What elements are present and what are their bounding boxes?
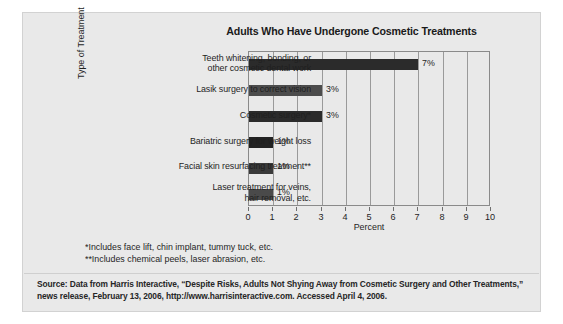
footnote: **Includes chemical peels, laser abrasio… — [85, 253, 273, 265]
footnote: *Includes face lift, chin implant, tummy… — [85, 241, 273, 253]
category-label: Cosmetic surgery* — [140, 110, 311, 121]
source-divider — [24, 273, 539, 274]
source-line-1: Source: Data from Harris Interactive, “D… — [37, 279, 533, 291]
y-axis-title: Type of Treatment — [75, 7, 86, 79]
bar-value-label: 1% — [277, 161, 290, 171]
bar-value-label: 7% — [422, 58, 435, 68]
source-note: Source: Data from Harris Interactive, “D… — [37, 279, 533, 302]
category-label: Lasik surgery to correct vision — [140, 84, 311, 95]
bar-value-label: 1% — [277, 187, 290, 197]
bar-value-label: 3% — [326, 84, 339, 94]
bar-value-label: 1% — [277, 136, 290, 146]
x-axis-ticks: 012345678910 — [248, 207, 490, 221]
chart-title: Adults Who Have Undergone Cosmetic Treat… — [189, 25, 513, 37]
category-label: Teeth whitening, bonding, or other cosme… — [140, 53, 311, 74]
source-line-2: news release, February 13, 2006, http://… — [37, 291, 533, 303]
figure-card: Adults Who Have Undergone Cosmetic Treat… — [22, 12, 541, 312]
bar-value-label: 3% — [326, 110, 339, 120]
x-axis-title: Percent — [254, 221, 484, 232]
footnotes: *Includes face lift, chin implant, tummy… — [85, 241, 273, 266]
